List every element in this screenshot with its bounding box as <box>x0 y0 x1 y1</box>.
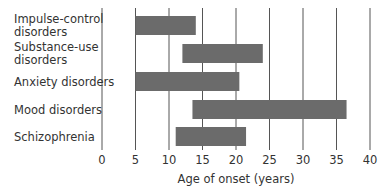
range-bar <box>136 16 196 35</box>
range-bar <box>136 72 240 91</box>
range-bars <box>136 16 347 146</box>
x-tick-labels: 0510152025303540 <box>98 153 377 167</box>
x-tick-label: 40 <box>363 153 378 167</box>
x-tick-label: 5 <box>132 153 139 167</box>
category-label: Substance-use <box>14 40 99 54</box>
x-tick-label: 25 <box>262 153 277 167</box>
category-label: disorders <box>14 25 67 39</box>
category-labels: Impulse-controldisordersSubstance-usedis… <box>14 12 114 144</box>
x-tick-label: 10 <box>162 153 177 167</box>
x-tick-label: 15 <box>195 153 210 167</box>
category-label: disorders <box>14 53 67 67</box>
range-bar <box>176 127 246 146</box>
range-bar <box>182 44 262 63</box>
category-label: Anxiety disorders <box>14 75 114 89</box>
x-tick-label: 0 <box>98 153 105 167</box>
x-tick-label: 20 <box>229 153 244 167</box>
category-label: Impulse-control <box>14 12 103 26</box>
category-label: Schizophrenia <box>14 130 95 144</box>
category-label: Mood disorders <box>14 103 102 117</box>
age-of-onset-chart: Impulse-controldisordersSubstance-usedis… <box>0 0 388 189</box>
range-bar <box>192 100 346 119</box>
x-tick-label: 35 <box>329 153 344 167</box>
x-tick-label: 30 <box>296 153 311 167</box>
x-axis-title: Age of onset (years) <box>178 172 295 186</box>
